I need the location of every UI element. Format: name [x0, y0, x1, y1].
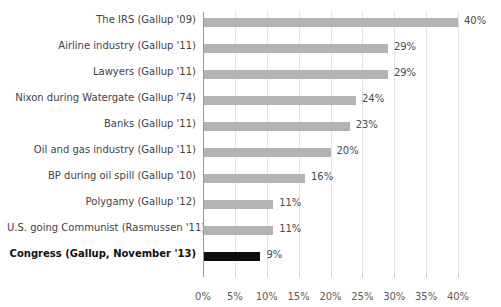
bar — [203, 148, 331, 157]
bar-value-label: 23% — [356, 119, 378, 130]
y-axis-line — [203, 12, 204, 273]
bar — [203, 122, 350, 131]
x-axis-tick — [394, 273, 395, 277]
category-label: Banks (Gallup '11) — [7, 118, 203, 129]
x-axis-tick — [299, 273, 300, 277]
bar — [203, 200, 273, 209]
plot-area: 0%5%10%15%20%25%30%35%40%The IRS (Gallup… — [203, 12, 458, 273]
bar-value-label: 9% — [266, 249, 282, 260]
x-axis-tick — [426, 273, 427, 277]
x-axis-tick — [235, 273, 236, 277]
bar-value-label: 29% — [394, 41, 416, 52]
bar — [203, 70, 388, 79]
x-axis-tick — [203, 273, 204, 277]
category-label: Lawyers (Gallup '11) — [7, 66, 203, 77]
x-axis-tick-label: 40% — [438, 291, 478, 302]
category-label: Polygamy (Gallup '12) — [7, 196, 203, 207]
bar — [203, 174, 305, 183]
chart-row: U.S. going Communist (Rasmussen '11)11% — [203, 220, 458, 246]
category-label: U.S. going Communist (Rasmussen '11) — [7, 222, 203, 233]
category-label: BP during oil spill (Gallup '10) — [7, 170, 203, 181]
bar-value-label: 40% — [464, 15, 486, 26]
bar — [203, 18, 458, 27]
bar-value-label: 24% — [362, 93, 384, 104]
chart-row: Polygamy (Gallup '12)11% — [203, 194, 458, 220]
bar-value-label: 11% — [279, 223, 301, 234]
bar — [203, 226, 273, 235]
category-label: Congress (Gallup, November '13) — [7, 248, 203, 259]
chart-row: Congress (Gallup, November '13)9% — [203, 246, 458, 272]
x-axis-tick — [362, 273, 363, 277]
x-axis-tick — [458, 273, 459, 277]
bar-value-label: 11% — [279, 197, 301, 208]
category-label: Nixon during Watergate (Gallup '74) — [7, 92, 203, 103]
x-axis-tick — [331, 273, 332, 277]
bar-value-label: 20% — [337, 145, 359, 156]
bar-value-label: 29% — [394, 67, 416, 78]
chart-row: Banks (Gallup '11)23% — [203, 116, 458, 142]
bar-value-label: 16% — [311, 171, 333, 182]
bar — [203, 252, 260, 261]
category-label: Oil and gas industry (Gallup '11) — [7, 144, 203, 155]
bar-chart: 0%5%10%15%20%25%30%35%40%The IRS (Gallup… — [0, 0, 501, 307]
gridline — [458, 12, 459, 273]
category-label: The IRS (Gallup '09) — [7, 14, 203, 25]
chart-row: Lawyers (Gallup '11)29% — [203, 64, 458, 90]
category-label: Airline industry (Gallup '11) — [7, 40, 203, 51]
x-axis-tick — [267, 273, 268, 277]
bar — [203, 96, 356, 105]
bar — [203, 44, 388, 53]
chart-row: Airline industry (Gallup '11)29% — [203, 38, 458, 64]
chart-row: The IRS (Gallup '09)40% — [203, 12, 458, 38]
chart-row: Nixon during Watergate (Gallup '74)24% — [203, 90, 458, 116]
chart-row: Oil and gas industry (Gallup '11)20% — [203, 142, 458, 168]
chart-row: BP during oil spill (Gallup '10)16% — [203, 168, 458, 194]
